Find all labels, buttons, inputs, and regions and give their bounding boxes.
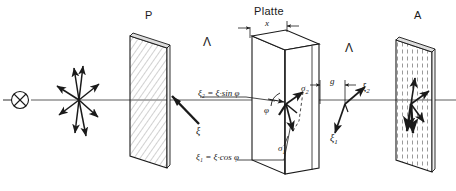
xi-incident-label: ξ bbox=[196, 126, 200, 136]
xi2-subscript: 2 bbox=[366, 87, 370, 95]
unpolarized-light-star bbox=[57, 66, 99, 136]
output-vectors bbox=[335, 87, 365, 133]
xi1-output-label: ξ1 bbox=[330, 133, 338, 146]
gap-label: g bbox=[330, 77, 335, 86]
sigma2-subscript: 2 bbox=[305, 88, 308, 95]
formula-top: ξ₂ = ξ·sin φ bbox=[198, 89, 239, 98]
polarizer-plate bbox=[130, 33, 170, 168]
thickness-label: x bbox=[265, 19, 269, 28]
xi2-output-label: ξ2 bbox=[362, 82, 370, 95]
lambda-left-label: Λ bbox=[203, 36, 211, 48]
polarizer-label: P bbox=[145, 10, 153, 21]
formula-bottom: ξ₁ = ξ·cos φ bbox=[196, 153, 239, 162]
sigma1-label: σ1 bbox=[278, 144, 286, 155]
sigma1-subscript: 1 bbox=[282, 148, 285, 155]
optics-diagram: P Platte A Λ Λ x g ξ₂ = ξ·sin φ ξ₁ = ξ·c… bbox=[0, 0, 456, 191]
light-source-icon bbox=[3, 92, 29, 109]
plate-label: Platte bbox=[254, 6, 284, 17]
xi1-subscript: 1 bbox=[334, 138, 338, 146]
sigma2-label: σ2 bbox=[301, 84, 309, 95]
lambda-right-label: Λ bbox=[345, 42, 353, 54]
analyzer-plate bbox=[396, 37, 435, 172]
analyzer-label: A bbox=[414, 10, 422, 21]
phi-angle-label: φ bbox=[264, 106, 269, 115]
